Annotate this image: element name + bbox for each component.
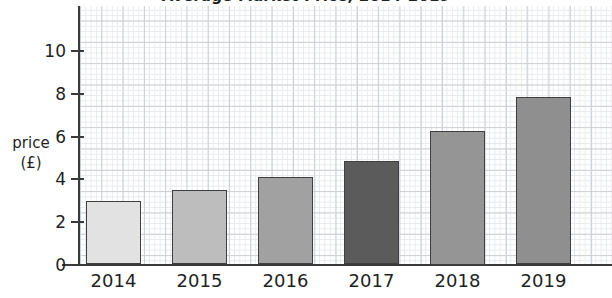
chart-screenshot: Average Market Price, 2014-2019 0246810 … (0, 0, 612, 298)
bar-2016[interactable] (258, 177, 313, 264)
y-tick-label-10: 10 (36, 41, 66, 61)
x-tick-label-2019: 2019 (501, 270, 587, 291)
y-tick-2 (71, 221, 84, 223)
bar-2014[interactable] (86, 201, 141, 265)
bar-2018[interactable] (430, 131, 485, 264)
bar-2019[interactable] (516, 97, 571, 264)
y-tick-10 (71, 50, 84, 52)
y-tick-8 (71, 93, 84, 95)
y-tick-4 (71, 178, 84, 180)
x-tick-label-2018: 2018 (415, 270, 501, 291)
y-tick-label-2: 2 (36, 212, 66, 232)
x-tick-label-2016: 2016 (243, 270, 329, 291)
y-tick-6 (71, 136, 84, 138)
y-axis-title-line2: (£) (0, 153, 62, 173)
x-tick-label-2015: 2015 (157, 270, 243, 291)
y-tick-label-8: 8 (36, 84, 66, 104)
x-tick-label-2017: 2017 (329, 270, 415, 291)
y-axis-title: price (£) (0, 133, 62, 174)
bar-2015[interactable] (172, 190, 227, 265)
y-tick-0 (71, 264, 84, 266)
bar-2017[interactable] (344, 161, 399, 264)
y-tick-label-0: 0 (36, 255, 66, 275)
x-tick-label-2014: 2014 (71, 270, 157, 291)
chart-title: Average Market Price, 2014-2019 (0, 0, 612, 5)
y-axis-title-line1: price (0, 133, 62, 153)
